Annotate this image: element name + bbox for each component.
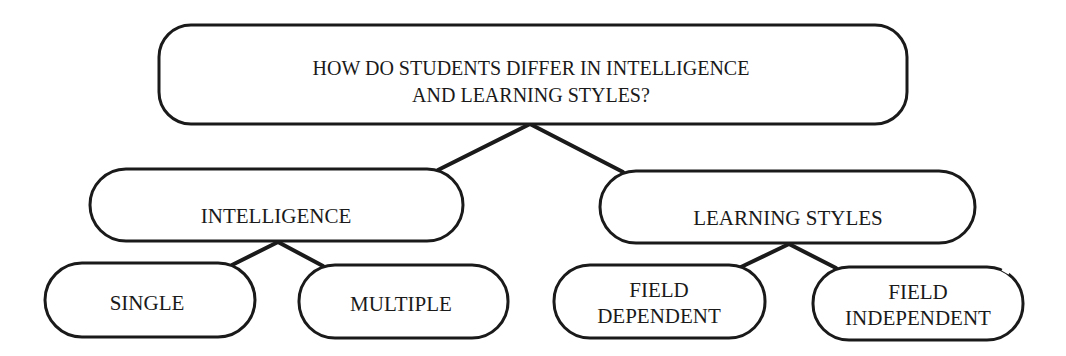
node-root: HOW DO STUDENTS DIFFER IN INTELLIGENCE A… <box>159 25 907 124</box>
edge-intelligence-multiple <box>278 242 323 266</box>
edge-root-intelligence <box>438 124 530 170</box>
connectors-root <box>438 124 623 172</box>
node-single: SINGLE <box>45 263 255 337</box>
learning-styles-label: LEARNING STYLES <box>693 206 883 230</box>
single-label: SINGLE <box>110 291 185 315</box>
field-independent-label-line-2: INDEPENDENT <box>845 306 991 330</box>
multiple-label: MULTIPLE <box>350 292 452 316</box>
node-field-independent: FIELD INDEPENDENT <box>813 267 1023 340</box>
edge-learning-styles-field-dependent <box>741 244 789 267</box>
intelligence-label: INTELLIGENCE <box>201 204 351 228</box>
node-intelligence: INTELLIGENCE <box>90 169 463 241</box>
edge-root-learning-styles <box>530 124 623 172</box>
field-dependent-label-line-2: DEPENDENT <box>597 304 721 328</box>
print-gap-right <box>1003 268 1010 272</box>
node-field-dependent: FIELD DEPENDENT <box>554 265 765 338</box>
field-independent-label-line-1: FIELD <box>888 280 948 304</box>
connectors-intelligence <box>232 242 323 266</box>
connectors-learning-styles <box>741 244 836 268</box>
root-label-line-1: HOW DO STUDENTS DIFFER IN INTELLIGENCE <box>313 57 750 79</box>
root-label-line-2: AND LEARNING STYLES? <box>412 84 650 106</box>
print-gap-left <box>815 270 822 276</box>
edge-intelligence-single <box>232 242 278 265</box>
concept-diagram: HOW DO STUDENTS DIFFER IN INTELLIGENCE A… <box>0 0 1066 356</box>
node-multiple: MULTIPLE <box>299 265 508 338</box>
field-dependent-label-line-1: FIELD <box>629 278 689 302</box>
node-learning-styles: LEARNING STYLES <box>600 171 975 243</box>
edge-learning-styles-field-independent <box>789 244 836 268</box>
